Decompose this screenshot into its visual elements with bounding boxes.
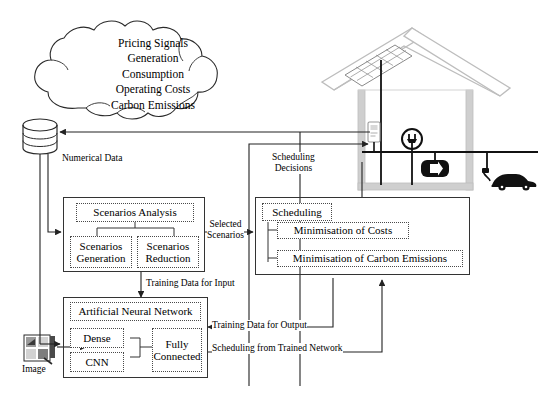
minimisation-costs-box[interactable]: Minimisation of Costs <box>277 222 409 239</box>
cloud-line-5: Carbon Emissions <box>78 98 228 113</box>
scheduling-decisions-line-1: Scheduling <box>272 152 315 163</box>
battery-icon <box>421 152 449 177</box>
dense-box[interactable]: Dense <box>70 328 124 348</box>
house-shape <box>322 28 538 191</box>
training-data-input-label: Training Data for Input <box>146 278 235 289</box>
electric-car-icon <box>482 152 536 191</box>
cloud-line-1: Pricing Signals <box>78 36 228 51</box>
selected-scenarios-line-1: Selected <box>207 219 244 230</box>
plug-socket-icon <box>402 129 422 185</box>
scheduling-decisions-label: Scheduling Decisions <box>272 152 315 174</box>
cloud-line-2: Generation <box>78 51 228 66</box>
numerical-data-label: Numerical Data <box>62 153 122 163</box>
smart-meter-icon <box>368 122 380 151</box>
scenarios-generation-box[interactable]: Scenarios Generation <box>70 236 132 268</box>
scheduling-decisions-line-2: Decisions <box>272 163 315 174</box>
scheduling-trained-network-label: Scheduling from Trained Network <box>212 343 343 354</box>
cloud-line-4: Operating Costs <box>78 82 228 97</box>
training-data-output-label: Training Data for Output <box>212 320 307 331</box>
scheduling-box[interactable]: Scheduling <box>262 203 332 221</box>
fully-connected-box[interactable]: Fully Connected <box>152 328 202 372</box>
diagram-canvas: Pricing Signals Generation Consumption O… <box>0 0 538 396</box>
cnn-box[interactable]: CNN <box>70 352 124 372</box>
scenarios-reduction-box[interactable]: Scenarios Reduction <box>137 236 199 268</box>
cloud-line-3: Consumption <box>78 67 228 82</box>
image-label: Image <box>22 364 46 374</box>
scenarios-analysis-box[interactable]: Scenarios Analysis <box>76 203 194 222</box>
database-cylinder-shape <box>23 119 57 154</box>
cloud-text-block: Pricing Signals Generation Consumption O… <box>78 36 228 113</box>
selected-scenarios-line-2: Scenarios <box>207 230 244 241</box>
selected-scenarios-label: Selected Scenarios <box>207 219 244 241</box>
artificial-neural-network-box[interactable]: Artificial Neural Network <box>70 302 201 321</box>
minimisation-carbon-box[interactable]: Minimisation of Carbon Emissions <box>277 250 463 267</box>
